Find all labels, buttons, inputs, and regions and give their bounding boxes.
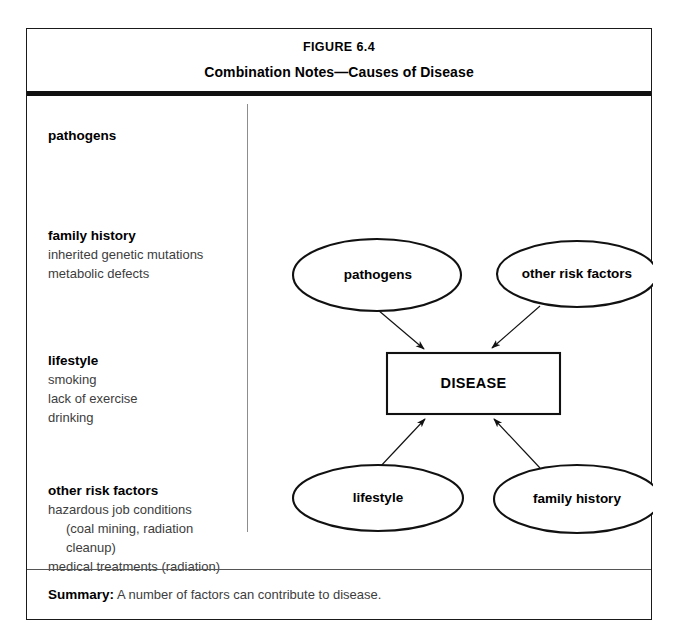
note-detail: inherited genetic mutations xyxy=(48,245,248,264)
note-detail: lack of exercise xyxy=(48,389,248,408)
note-detail: hazardous job conditions xyxy=(48,500,248,519)
node-box-disease xyxy=(387,353,560,414)
notes-column: pathogens family history inherited genet… xyxy=(48,96,244,569)
note-detail: metabolic defects xyxy=(48,264,248,283)
summary-strip: Summary: A number of factors can contrib… xyxy=(27,570,651,618)
figure-header: FIGURE 6.4 Combination Notes—Causes of D… xyxy=(27,29,651,96)
note-heading: lifestyle xyxy=(48,351,248,370)
note-detail: cleanup) xyxy=(48,538,248,557)
diagram-canvas xyxy=(248,96,653,569)
note-detail: (coal mining, radiation xyxy=(48,519,248,538)
edge-pathogens-to-disease xyxy=(378,310,424,349)
note-heading: other risk factors xyxy=(48,481,248,500)
concept-map-diagram: pathogens other risk factors DISEASE lif… xyxy=(248,96,653,569)
summary-label: Summary: xyxy=(48,587,114,602)
summary-body: A number of factors can contribute to di… xyxy=(114,587,381,602)
figure-number: FIGURE 6.4 xyxy=(303,40,375,54)
note-group-lifestyle: lifestyle smoking lack of exercise drink… xyxy=(48,351,248,427)
note-heading: family history xyxy=(48,226,248,245)
node-ellipse-lifestyle xyxy=(293,465,463,531)
figure-title: Combination Notes—Causes of Disease xyxy=(204,64,474,80)
edge-other-risk-factors-to-disease xyxy=(492,306,540,348)
note-group-family-history: family history inherited genetic mutatio… xyxy=(48,226,248,283)
node-ellipse-pathogens xyxy=(293,239,461,311)
note-detail: drinking xyxy=(48,408,248,427)
node-ellipse-family-history xyxy=(494,465,653,533)
edge-family-history-to-disease xyxy=(494,419,540,468)
figure-frame: FIGURE 6.4 Combination Notes—Causes of D… xyxy=(26,28,652,620)
note-group-other-risk-factors: other risk factors hazardous job conditi… xyxy=(48,481,248,576)
summary-text: Summary: A number of factors can contrib… xyxy=(27,587,381,602)
edge-lifestyle-to-disease xyxy=(379,419,425,468)
figure-body: pathogens family history inherited genet… xyxy=(27,96,651,569)
note-group-pathogens: pathogens xyxy=(48,126,248,145)
note-detail: smoking xyxy=(48,370,248,389)
node-ellipse-other-risk-factors xyxy=(497,241,653,307)
note-heading: pathogens xyxy=(48,126,248,145)
